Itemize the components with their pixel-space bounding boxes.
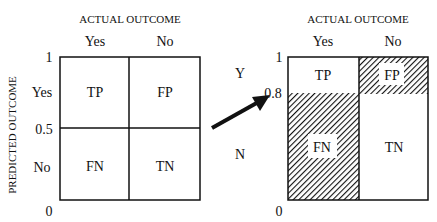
confusion-matrix-diagram: ACTUAL OUTCOME Yes No PREDICTED OUTCOME … bbox=[0, 0, 437, 222]
right-row-n: N bbox=[235, 147, 245, 162]
left-row-header: PREDICTED OUTCOME bbox=[6, 76, 18, 194]
right-tick-1: 1 bbox=[276, 50, 283, 65]
left-column-header: ACTUAL OUTCOME bbox=[79, 13, 181, 25]
left-cell-fp: FP bbox=[157, 85, 173, 100]
right-cell-fp: FP bbox=[384, 68, 400, 83]
arrow-icon bbox=[212, 95, 270, 128]
right-column-header: ACTUAL OUTCOME bbox=[307, 13, 409, 25]
left-tick-0-5: 0.5 bbox=[35, 122, 53, 137]
left-cell-tp: TP bbox=[87, 85, 104, 100]
right-matrix: ACTUAL OUTCOME Yes No 1 0.8 0 Y N TP FP … bbox=[235, 13, 428, 219]
left-cell-tn: TN bbox=[156, 159, 175, 174]
left-cell-fn: FN bbox=[86, 159, 104, 174]
right-row-y: Y bbox=[235, 66, 245, 81]
right-cell-tn: TN bbox=[385, 140, 404, 155]
right-tick-0-8: 0.8 bbox=[264, 86, 282, 101]
right-cell-fn: FN bbox=[313, 140, 331, 155]
left-tick-0: 0 bbox=[46, 204, 53, 219]
right-col-no: No bbox=[384, 34, 401, 49]
left-row-yes: Yes bbox=[32, 85, 52, 100]
left-matrix: ACTUAL OUTCOME Yes No PREDICTED OUTCOME … bbox=[6, 13, 200, 219]
left-row-no: No bbox=[33, 160, 50, 175]
left-col-yes: Yes bbox=[85, 34, 105, 49]
left-col-no: No bbox=[156, 34, 173, 49]
right-col-yes: Yes bbox=[313, 34, 333, 49]
left-tick-1: 1 bbox=[46, 50, 53, 65]
right-tick-0: 0 bbox=[276, 204, 283, 219]
right-cell-tp: TP bbox=[315, 68, 332, 83]
